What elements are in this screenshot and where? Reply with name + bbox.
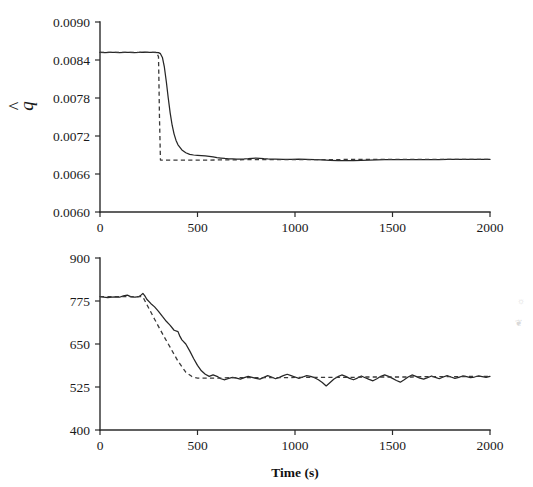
x-axis-tick-label: 500 [187,220,208,235]
y-axis-tick-label: 0.0072 [53,129,90,144]
scan-artifact-top: ☼ [517,296,525,306]
x-axis-tick-label: 1500 [379,220,406,235]
q-hat-accent: ^ [7,101,25,111]
x-axis-tick-label: 2000 [477,220,504,235]
y-axis-tick-label: 0.0090 [53,15,90,30]
q-estimate-plot: 0.00600.00660.00720.00780.00840.00900500… [0,0,533,240]
series-line-reference [100,52,490,160]
hmo-estimate-panel: 4005256507759000500100015002000Time (s) … [0,240,533,487]
x-axis-tick-label: 2000 [477,438,504,453]
x-axis-tick-label: 0 [97,438,104,453]
y-axis-tick-label: 0.0084 [53,53,90,68]
x-axis-tick-label: 1000 [282,438,309,453]
x-axis-tick-label: 0 [97,220,104,235]
series-line-estimated [100,52,490,161]
q-estimate-panel: 0.00600.00660.00720.00780.00840.00900500… [0,0,533,240]
y-axis-tick-label: 0.0066 [53,167,90,182]
y-axis-tick-label: 0.0060 [53,205,90,220]
y-axis-tick-label: 775 [70,294,91,309]
x-axis-tick-label: 1500 [379,438,406,453]
y-axis-tick-label: 650 [70,337,91,352]
x-axis-tick-label: 1000 [282,220,309,235]
hmo-estimate-plot: 4005256507759000500100015002000Time (s) [0,240,533,487]
series-line-reference [100,297,490,379]
figure-container: 0.00600.00660.00720.00780.00840.00900500… [0,0,533,487]
scan-artifact-bottom: ❦ [515,318,523,328]
x-axis-tick-label: 500 [187,438,208,453]
y-axis-label-q: ^q [16,83,38,129]
series-line-estimated [100,293,490,386]
y-axis-tick-label: 400 [70,423,91,438]
x-axis-title: Time (s) [271,465,318,480]
y-axis-tick-label: 525 [70,380,91,395]
y-axis-tick-label: 900 [70,251,91,266]
y-axis-tick-label: 0.0078 [53,91,90,106]
